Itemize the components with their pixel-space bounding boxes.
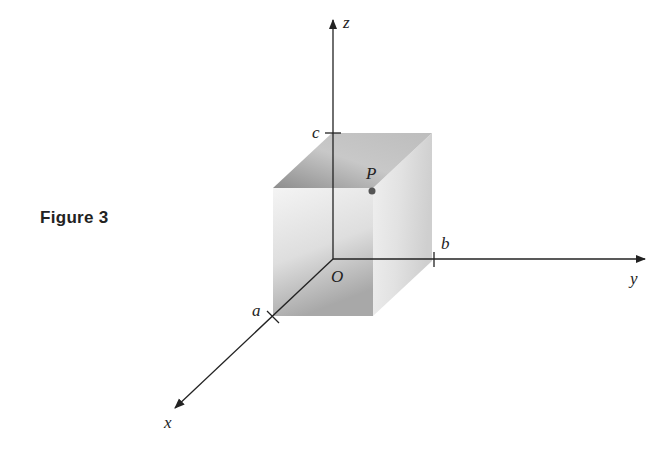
z-axis-label: z (342, 13, 350, 32)
box (273, 133, 432, 316)
x-axis (175, 259, 333, 408)
c-label: c (312, 123, 320, 142)
origin-label: O (331, 267, 343, 286)
3d-coordinate-diagram: z y x O c b a P (0, 0, 667, 459)
x-axis-label: x (163, 413, 172, 432)
box-front-face (273, 188, 373, 316)
a-label: a (252, 301, 261, 320)
point-p (369, 188, 376, 195)
b-label: b (441, 234, 450, 253)
y-axis-label: y (628, 269, 638, 288)
p-label: P (365, 164, 376, 183)
